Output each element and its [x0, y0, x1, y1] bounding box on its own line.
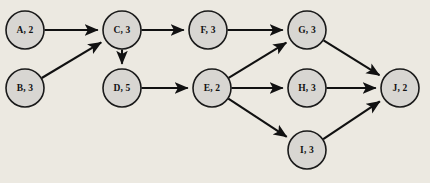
node-i[interactable]: I, 3 — [288, 131, 326, 169]
node-a[interactable]: A, 2 — [6, 11, 44, 49]
edge-e-to-g — [229, 43, 287, 78]
node-j[interactable]: J, 2 — [381, 69, 419, 107]
node-b[interactable]: B, 3 — [6, 69, 44, 107]
node-label-f: F, 3 — [200, 25, 215, 35]
node-h[interactable]: H, 3 — [288, 69, 326, 107]
edge-e-to-i — [228, 99, 286, 137]
node-label-b: B, 3 — [17, 83, 34, 93]
network-diagram: A, 2B, 3C, 3D, 5F, 3E, 2G, 3H, 3I, 3J, 2 — [0, 0, 430, 183]
node-d[interactable]: D, 5 — [103, 69, 141, 107]
node-label-h: H, 3 — [298, 83, 316, 93]
node-g[interactable]: G, 3 — [288, 11, 326, 49]
node-label-g: G, 3 — [298, 25, 316, 35]
node-label-a: A, 2 — [16, 25, 33, 35]
nodes-layer: A, 2B, 3C, 3D, 5F, 3E, 2G, 3H, 3I, 3J, 2 — [6, 11, 419, 169]
edge-b-to-c — [42, 42, 101, 78]
node-label-j: J, 2 — [392, 83, 407, 93]
node-e[interactable]: E, 2 — [193, 69, 231, 107]
node-label-e: E, 2 — [204, 83, 221, 93]
node-label-c: C, 3 — [113, 25, 130, 35]
edge-g-to-j — [324, 40, 380, 75]
node-f[interactable]: F, 3 — [189, 11, 227, 49]
node-label-d: D, 5 — [113, 83, 130, 93]
edge-i-to-j — [323, 101, 380, 139]
node-label-i: I, 3 — [300, 145, 314, 155]
node-c[interactable]: C, 3 — [103, 11, 141, 49]
graph-canvas: A, 2B, 3C, 3D, 5F, 3E, 2G, 3H, 3I, 3J, 2 — [0, 0, 430, 183]
